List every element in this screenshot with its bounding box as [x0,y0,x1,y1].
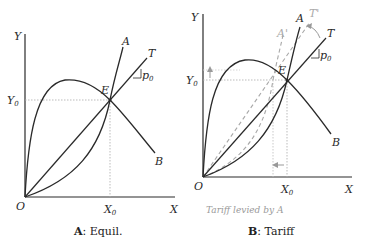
offer-curve-a [25,47,123,197]
curve-b-label: B [331,136,340,149]
y0-label: Y0 [7,94,19,108]
curve-a-label: A [121,35,130,48]
offer-curve-b [25,80,155,197]
caption-a: A: Equil. [73,225,122,238]
price-label: p0 [142,69,154,83]
x-axis-label: X [169,203,179,216]
point-e-label: E [277,64,286,77]
line-t-label: T [327,27,336,40]
line-t-shifted-label: T' [309,7,319,20]
offer-curve-b [203,60,331,177]
shifted-terms-of-trade-line [203,22,310,177]
caption-b: B: Tariff [248,225,295,238]
point-e-label: E [100,84,109,97]
tariff-note: Tariff levied by A [206,205,284,215]
terms-of-trade-line [203,38,326,177]
y-axis-label: Y [191,11,200,24]
x0-label: X0 [103,203,117,217]
curve-a-shifted-label: A' [276,27,288,40]
curve-a-label: A [295,12,304,25]
curve-b-label: B [154,155,163,168]
offer-curve-a [203,27,300,177]
terms-of-trade-line [25,58,147,197]
offer-curve-diagrams: Y X O Y0 X0 A T B E p0 A: Equil. Y [0,0,369,242]
panel-a: Y X O Y0 X0 A T B E p0 A: Equil. [7,30,179,238]
slope-triangle [133,69,141,78]
price-label: p0 [320,49,332,63]
origin-label: O [16,200,25,213]
y0-label: Y0 [186,74,198,88]
x0-label: X0 [280,183,294,197]
panel-b: Y X O Y0 X0 A A' T' T B E p0 Tariff levi… [186,7,354,238]
equilibrium-point [285,78,288,81]
origin-label: O [194,180,203,193]
up-arrowhead-icon [207,66,213,72]
equilibrium-point [108,98,111,101]
y-axis-label: Y [14,30,23,43]
x-axis-label: X [344,183,354,196]
line-t-label: T [148,47,157,60]
rotation-arrowhead-icon [306,23,312,29]
